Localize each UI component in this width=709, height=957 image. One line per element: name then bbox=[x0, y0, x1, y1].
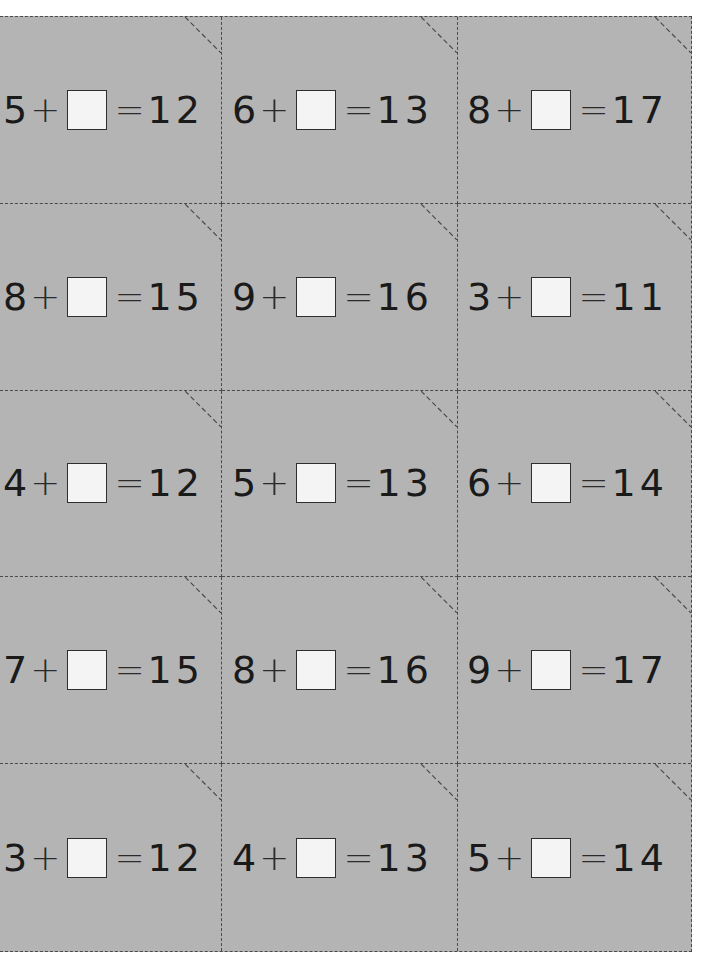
equation: 3 + = 11 bbox=[467, 277, 668, 317]
equation: 8 + = 15 bbox=[3, 277, 204, 317]
plus-sign: + bbox=[494, 652, 524, 688]
sum: 17 bbox=[612, 91, 668, 129]
corner-fold-icon bbox=[655, 204, 691, 240]
answer-box[interactable] bbox=[67, 277, 107, 317]
equals-sign: = bbox=[343, 92, 373, 128]
corner-fold-icon bbox=[421, 17, 457, 53]
flashcard-r4c3: 9 + = 17 bbox=[458, 577, 691, 764]
addend: 9 bbox=[467, 651, 491, 689]
addend: 4 bbox=[232, 839, 256, 877]
answer-box[interactable] bbox=[296, 90, 336, 130]
corner-fold-icon bbox=[185, 577, 221, 613]
sum: 14 bbox=[612, 464, 668, 502]
addend: 6 bbox=[467, 464, 491, 502]
equation: 4 + = 12 bbox=[3, 463, 204, 503]
equals-sign: = bbox=[343, 652, 373, 688]
sum: 12 bbox=[148, 839, 204, 877]
addend: 9 bbox=[232, 278, 256, 316]
flashcard-r1c1: 5 + = 12 bbox=[0, 17, 222, 204]
flashcard-r3c2: 5 + = 13 bbox=[222, 391, 458, 578]
flashcard-r5c3: 5 + = 14 bbox=[458, 764, 691, 951]
addend: 8 bbox=[467, 91, 491, 129]
plus-sign: + bbox=[259, 652, 289, 688]
equation: 3 + = 12 bbox=[3, 838, 204, 878]
flashcard-r3c1: 4 + = 12 bbox=[0, 391, 222, 578]
equation: 9 + = 17 bbox=[467, 650, 668, 690]
sum: 13 bbox=[377, 464, 433, 502]
answer-box[interactable] bbox=[296, 650, 336, 690]
equation: 9 + = 16 bbox=[232, 277, 433, 317]
sum: 17 bbox=[612, 651, 668, 689]
answer-box[interactable] bbox=[296, 838, 336, 878]
corner-fold-icon bbox=[655, 391, 691, 427]
plus-sign: + bbox=[494, 92, 524, 128]
plus-sign: + bbox=[259, 279, 289, 315]
equals-sign: = bbox=[114, 840, 144, 876]
answer-box[interactable] bbox=[67, 90, 107, 130]
plus-sign: + bbox=[30, 840, 60, 876]
flashcard-sheet: 5 + = 12 6 + = 13 8 + = 17 bbox=[0, 16, 692, 952]
equals-sign: = bbox=[114, 465, 144, 501]
flashcard-r2c3: 3 + = 11 bbox=[458, 204, 691, 391]
addend: 7 bbox=[3, 651, 27, 689]
equation: 6 + = 14 bbox=[467, 463, 668, 503]
equals-sign: = bbox=[114, 92, 144, 128]
plus-sign: + bbox=[30, 92, 60, 128]
answer-box[interactable] bbox=[531, 838, 571, 878]
addend: 8 bbox=[232, 651, 256, 689]
equation: 7 + = 15 bbox=[3, 650, 204, 690]
flashcard-grid: 5 + = 12 6 + = 13 8 + = 17 bbox=[0, 17, 691, 951]
sum: 12 bbox=[148, 464, 204, 502]
flashcard-r2c2: 9 + = 16 bbox=[222, 204, 458, 391]
sum: 13 bbox=[377, 839, 433, 877]
sum: 12 bbox=[148, 91, 204, 129]
equals-sign: = bbox=[114, 279, 144, 315]
answer-box[interactable] bbox=[67, 650, 107, 690]
addend: 3 bbox=[3, 839, 27, 877]
answer-box[interactable] bbox=[531, 277, 571, 317]
addend: 5 bbox=[3, 91, 27, 129]
addend: 8 bbox=[3, 278, 27, 316]
corner-fold-icon bbox=[185, 391, 221, 427]
answer-box[interactable] bbox=[296, 277, 336, 317]
sum: 13 bbox=[377, 91, 433, 129]
flashcard-r4c1: 7 + = 15 bbox=[0, 577, 222, 764]
answer-box[interactable] bbox=[67, 463, 107, 503]
corner-fold-icon bbox=[185, 764, 221, 800]
plus-sign: + bbox=[259, 465, 289, 501]
sum: 14 bbox=[612, 839, 668, 877]
plus-sign: + bbox=[30, 652, 60, 688]
answer-box[interactable] bbox=[531, 90, 571, 130]
sum: 16 bbox=[377, 278, 433, 316]
flashcard-r1c2: 6 + = 13 bbox=[222, 17, 458, 204]
plus-sign: + bbox=[494, 279, 524, 315]
corner-fold-icon bbox=[421, 204, 457, 240]
flashcard-r5c1: 3 + = 12 bbox=[0, 764, 222, 951]
plus-sign: + bbox=[259, 92, 289, 128]
equals-sign: = bbox=[578, 279, 608, 315]
corner-fold-icon bbox=[185, 17, 221, 53]
addend: 5 bbox=[467, 839, 491, 877]
answer-box[interactable] bbox=[531, 650, 571, 690]
addend: 6 bbox=[232, 91, 256, 129]
corner-fold-icon bbox=[185, 204, 221, 240]
equals-sign: = bbox=[343, 465, 373, 501]
corner-fold-icon bbox=[421, 391, 457, 427]
flashcard-r3c3: 6 + = 14 bbox=[458, 391, 691, 578]
sum: 15 bbox=[148, 278, 204, 316]
sum: 15 bbox=[148, 651, 204, 689]
corner-fold-icon bbox=[421, 764, 457, 800]
equals-sign: = bbox=[578, 465, 608, 501]
plus-sign: + bbox=[494, 465, 524, 501]
flashcard-r4c2: 8 + = 16 bbox=[222, 577, 458, 764]
equals-sign: = bbox=[343, 279, 373, 315]
equals-sign: = bbox=[114, 652, 144, 688]
addend: 5 bbox=[232, 464, 256, 502]
plus-sign: + bbox=[494, 840, 524, 876]
answer-box[interactable] bbox=[67, 838, 107, 878]
answer-box[interactable] bbox=[296, 463, 336, 503]
answer-box[interactable] bbox=[531, 463, 571, 503]
equals-sign: = bbox=[578, 652, 608, 688]
sum: 16 bbox=[377, 651, 433, 689]
equation: 5 + = 13 bbox=[232, 463, 433, 503]
